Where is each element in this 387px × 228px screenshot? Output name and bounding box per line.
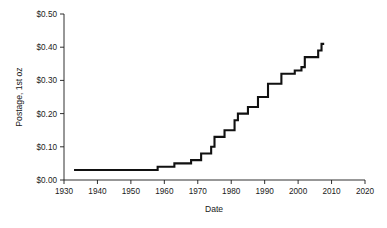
x-tick-marks [64,180,365,184]
y-tick-label: $0.40 [37,43,58,52]
y-tick-label: $0.30 [37,76,58,85]
y-tick-label: $0.00 [37,176,58,185]
x-tick-label: 1940 [88,187,107,196]
postage-step-line [74,44,324,170]
chart-figure: $0.00$0.10$0.20$0.30$0.40$0.50 193019401… [0,0,387,228]
x-tick-label: 1990 [256,187,275,196]
y-tick-label: $0.50 [37,10,58,19]
postage-rate-step-chart: $0.00$0.10$0.20$0.30$0.40$0.50 193019401… [0,0,387,228]
x-axis-title: Date [205,204,223,214]
y-tick-label: $0.20 [37,110,58,119]
y-axis-title: Postage, 1st oz [14,67,24,126]
chart-axes [60,14,365,184]
x-tick-label: 1930 [55,187,74,196]
x-tick-label: 2000 [289,187,308,196]
x-tick-label: 2020 [356,187,375,196]
x-tick-label: 1970 [189,187,208,196]
y-tick-labels: $0.00$0.10$0.20$0.30$0.40$0.50 [37,10,58,185]
x-tick-label: 1950 [122,187,141,196]
x-tick-label: 1960 [155,187,174,196]
x-tick-labels: 1930194019501960197019801990200020102020 [55,187,375,196]
x-tick-label: 2010 [322,187,341,196]
x-tick-label: 1980 [222,187,241,196]
y-tick-marks [60,14,64,180]
y-tick-label: $0.10 [37,143,58,152]
axis-frame [64,14,365,180]
